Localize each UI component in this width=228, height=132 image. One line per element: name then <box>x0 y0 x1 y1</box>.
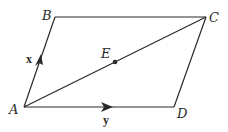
vector-label-y: y <box>103 113 109 127</box>
vector-label-x: x <box>26 52 32 66</box>
vertex-label-c: C <box>209 10 219 25</box>
vertex-label-d: D <box>176 106 188 121</box>
point-e-dot <box>113 60 118 65</box>
diagram-canvas: B C A D E x y <box>0 0 228 132</box>
parallelogram-diagram: B C A D E x y <box>0 0 228 132</box>
point-label-e: E <box>100 46 111 61</box>
vertex-label-b: B <box>41 8 52 23</box>
vertex-label-a: A <box>8 102 18 117</box>
